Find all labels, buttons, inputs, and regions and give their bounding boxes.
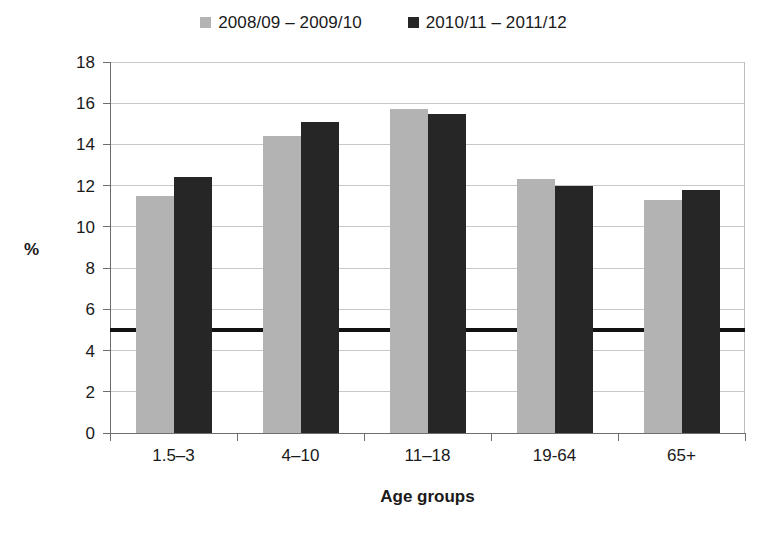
bar [301,122,339,433]
x-axis-tick-label: 19-64 [491,446,618,466]
y-axis-tick-label: 0 [55,425,95,442]
x-axis-tick [364,433,365,441]
y-axis-tick [103,226,110,227]
plot-area [110,62,745,433]
y-axis-tick [103,144,110,145]
y-axis-tick-label: 18 [55,54,95,71]
legend-label-series-a: 2008/09 – 2009/10 [218,14,362,31]
legend-label-series-b: 2010/11 – 2011/12 [426,14,567,31]
x-axis-title: Age groups [110,487,745,507]
bar-group [491,62,618,433]
x-axis-tick [110,433,111,441]
bar [136,196,174,433]
chart-legend: 2008/09 – 2009/10 2010/11 – 2011/12 [0,14,767,31]
y-axis-tick [103,268,110,269]
bar [644,200,682,433]
x-axis-tick-label: 65+ [618,446,745,466]
bar [390,109,428,433]
bar-groups [110,62,745,433]
y-axis-tick-label: 10 [55,219,95,236]
y-axis-tick-label: 14 [55,136,95,153]
bar-group [110,62,237,433]
bar [263,136,301,433]
y-axis-tick [103,350,110,351]
x-axis-tick [237,433,238,441]
y-axis-tick-label: 2 [55,384,95,401]
y-axis-tick [103,185,110,186]
bar-chart: 2008/09 – 2009/10 2010/11 – 2011/12 % 02… [0,0,767,538]
x-axis-tick [745,433,746,441]
y-axis-tick [103,309,110,310]
bar-group [237,62,364,433]
legend-entry-series-a: 2008/09 – 2009/10 [200,14,362,31]
y-axis-tick [103,62,110,63]
x-axis-tick [491,433,492,441]
x-axis-tick-labels: 1.5–34–1011–1819-6465+ [110,446,745,466]
y-axis-tick-label: 16 [55,95,95,112]
y-axis-tick [103,103,110,104]
y-axis-title: % [24,240,39,260]
y-axis-tick [103,391,110,392]
y-axis-tick-label: 12 [55,178,95,195]
x-axis-tick-label: 1.5–3 [110,446,237,466]
x-axis-tick [618,433,619,441]
bar [174,177,212,433]
legend-entry-series-b: 2010/11 – 2011/12 [408,14,567,31]
x-axis-tick-label: 11–18 [364,446,491,466]
y-axis-tick-label: 4 [55,343,95,360]
bar [682,190,720,433]
y-axis-tick-label: 8 [55,260,95,277]
bar-group [364,62,491,433]
y-axis-tick [103,433,110,434]
x-axis-ticks [110,433,745,441]
legend-swatch-series-b [408,17,419,28]
bar [428,114,466,433]
legend-swatch-series-a [200,17,211,28]
y-axis-tick-label: 6 [55,301,95,318]
x-axis-tick-label: 4–10 [237,446,364,466]
bar [555,186,593,433]
bar [517,179,555,433]
bar-group [618,62,745,433]
